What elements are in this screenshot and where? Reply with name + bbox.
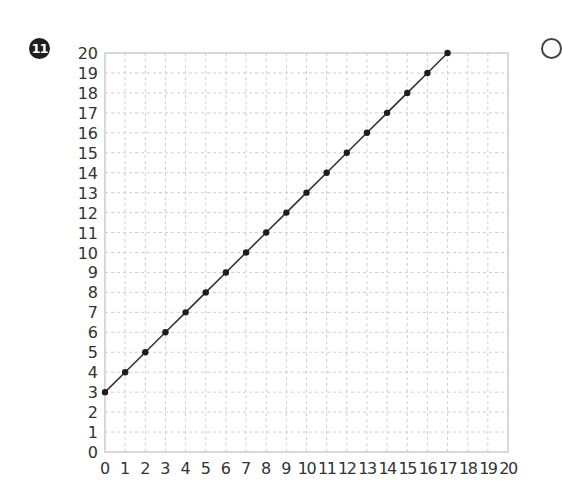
data-point-marker [303,189,309,195]
data-point-marker [203,289,209,295]
y-tick-label: 17 [78,104,98,123]
y-tick-label: 3 [88,383,98,402]
data-point-marker [223,269,229,275]
y-tick-label: 4 [88,363,98,382]
x-tick-label: 14 [378,459,397,478]
y-tick-label: 7 [88,303,98,322]
y-tick-label: 0 [88,443,98,462]
data-point-marker [283,209,289,215]
data-point-marker [344,150,350,156]
data-point-marker [243,249,249,255]
chart-grid [105,53,508,452]
y-axis-tick-labels: 01234567891011121314151617181920 [78,44,98,462]
data-point-marker [384,110,390,116]
x-tick-label: 12 [338,459,356,478]
x-tick-label: 16 [419,459,438,478]
y-tick-label: 13 [78,184,98,203]
x-tick-label: 17 [439,459,457,478]
y-tick-label: 20 [78,44,98,63]
x-tick-label: 20 [499,459,518,478]
x-tick-label: 7 [241,459,251,478]
y-tick-label: 9 [88,263,98,282]
data-series-line [102,50,451,396]
y-tick-label: 2 [88,403,98,422]
data-point-marker [263,229,269,235]
x-tick-label: 10 [298,459,317,478]
x-tick-label: 1 [120,459,130,478]
x-tick-label: 15 [399,459,417,478]
y-tick-label: 1 [88,423,98,442]
series-line [105,53,448,392]
x-tick-label: 4 [181,459,191,478]
x-tick-label: 2 [140,459,150,478]
y-tick-label: 18 [78,84,98,103]
data-point-marker [444,50,450,56]
y-tick-label: 15 [78,144,98,163]
data-point-marker [122,369,128,375]
y-tick-label: 14 [78,164,98,183]
y-tick-label: 19 [78,64,98,83]
data-point-marker [424,70,430,76]
data-point-marker [364,130,370,136]
data-point-marker [102,389,108,395]
y-tick-label: 6 [88,323,98,342]
data-point-marker [142,349,148,355]
y-tick-label: 5 [88,343,98,362]
y-tick-label: 11 [78,224,98,243]
x-tick-label: 8 [261,459,271,478]
x-axis-tick-labels: 01234567891011121314151617181920 [100,459,518,478]
x-tick-label: 13 [358,459,376,478]
x-tick-label: 5 [201,459,211,478]
y-tick-label: 8 [88,283,98,302]
x-tick-label: 11 [318,459,336,478]
data-point-marker [182,309,188,315]
data-point-marker [162,329,168,335]
x-tick-label: 0 [100,459,110,478]
x-tick-label: 18 [459,459,478,478]
x-tick-label: 3 [160,459,170,478]
y-tick-label: 16 [78,124,98,143]
y-tick-label: 12 [78,204,98,223]
y-tick-label: 10 [78,244,98,263]
data-point-marker [404,90,410,96]
x-tick-label: 9 [281,459,291,478]
data-point-marker [323,170,329,176]
x-tick-label: 6 [221,459,231,478]
x-tick-label: 19 [479,459,498,478]
